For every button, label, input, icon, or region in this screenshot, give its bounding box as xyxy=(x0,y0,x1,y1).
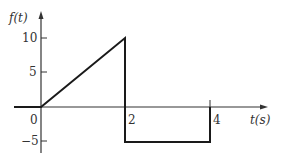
x-tick-label-2: 2 xyxy=(128,113,136,127)
y-tick-label-5: 5 xyxy=(29,65,37,79)
y-tick-label-10: 10 xyxy=(22,31,37,45)
y-axis-label: f(t) xyxy=(8,11,28,25)
axes xyxy=(14,11,268,153)
x-tick-label-0: 0 xyxy=(30,113,38,127)
x-tick-label-4: 4 xyxy=(213,113,221,127)
signal-curve xyxy=(14,38,210,142)
y-tick-label-neg5: −5 xyxy=(21,134,39,148)
y-axis-arrow-icon xyxy=(39,11,44,19)
x-axis-label: t(s) xyxy=(250,113,271,127)
x-axis-arrow-icon xyxy=(260,105,268,110)
chart-plot: f(t) 10 5 −5 0 2 4 t(s) xyxy=(0,0,282,159)
